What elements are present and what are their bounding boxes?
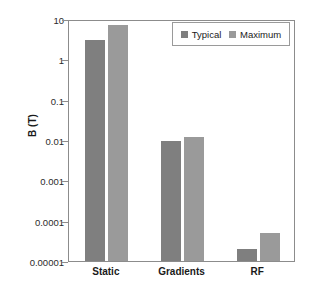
plot-area [68,20,295,262]
y-axis-title: B (T) [27,96,38,156]
bar-rf-maximum [260,233,280,261]
y-tick-label: 0.0001 [35,216,64,227]
legend-label: Maximum [240,29,281,40]
legend: Typical Maximum [172,22,290,46]
x-axis-label: RF [250,266,263,277]
legend-label: Typical [192,29,222,40]
bar-chart: B (T) 1010.10.010.0010.00010.00001 Stati… [0,0,313,293]
bar-rf-typical [237,249,257,261]
y-tick-label: 0.001 [40,176,64,187]
bar-gradients-maximum [184,137,204,261]
x-axis-label: Static [92,266,119,277]
legend-swatch-icon [229,31,236,38]
y-tick-mark [62,262,68,263]
bar-static-typical [85,40,105,261]
x-axis-label: Gradients [158,266,205,277]
legend-entry-maximum: Maximum [229,29,281,40]
bar-static-maximum [108,25,128,261]
legend-entry-typical: Typical [181,29,222,40]
bar-gradients-typical [161,141,181,261]
legend-swatch-icon [181,31,188,38]
y-tick-label: 0.00001 [30,257,64,268]
